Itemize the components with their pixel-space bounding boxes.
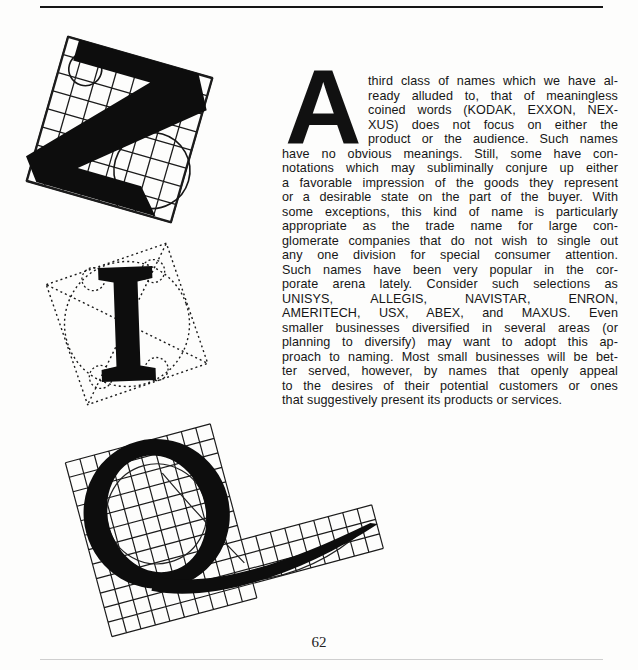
text-line: ready alluded to, that of meaningless <box>368 89 618 104</box>
bottom-rule <box>40 659 603 660</box>
text-line: any one division for special consumer at… <box>282 248 618 263</box>
i-letterform <box>98 266 156 382</box>
text-line: or a desirable state on the part of the … <box>282 190 618 205</box>
text-line: AMERITECH, USX, ABEX, and MAXUS. Even <box>282 306 618 321</box>
letter-z-figure <box>26 36 213 223</box>
text-line: ter served, however, by names that openl… <box>282 364 618 379</box>
letter-q-figure <box>59 382 401 653</box>
text-line: some exceptions, this kind of name is pa… <box>282 205 618 220</box>
letter-i-figure <box>44 241 209 406</box>
text-line: smaller businesses diversified in severa… <box>282 321 618 336</box>
z-letterform <box>20 34 216 222</box>
text-line: UNISYS, ALLEGIS, NAVISTAR, ENRON, <box>282 292 618 307</box>
text-line: planning to diversify) may want to adopt… <box>282 335 618 350</box>
text-line: that suggestively present its products o… <box>282 393 618 408</box>
article-text: A third class of names which we have al-… <box>282 74 618 408</box>
letter-i-drawing <box>44 241 209 406</box>
text-line: third class of names which we have al- <box>368 74 618 89</box>
text-line: glomerate companies that do not wish to … <box>282 234 618 249</box>
letter-z-drawing <box>26 36 213 223</box>
text-line: Such names have been very popular in the… <box>282 263 618 278</box>
top-rule <box>40 6 603 8</box>
text-line: coined words (KODAK, EXXON, NEX- <box>368 103 618 118</box>
text-line: proach to naming. Most small businesses … <box>282 350 618 365</box>
text-line: XUS) does not focus on either the <box>368 118 618 133</box>
q-tail <box>148 517 384 609</box>
page-number: 62 <box>281 634 357 651</box>
text-line: a favorable impression of the goods they… <box>282 176 618 191</box>
text-line: product or the audience. Such names <box>368 132 618 147</box>
book-page: A third class of names which we have al-… <box>0 0 638 670</box>
text-line: to the desires of their potential custom… <box>282 379 618 394</box>
letter-q-drawing <box>59 382 401 653</box>
text-line: porate arena lately. Consider such selec… <box>282 277 618 292</box>
text-line: appropriate as the trade name for large … <box>282 219 618 234</box>
drop-cap: A <box>285 54 362 160</box>
